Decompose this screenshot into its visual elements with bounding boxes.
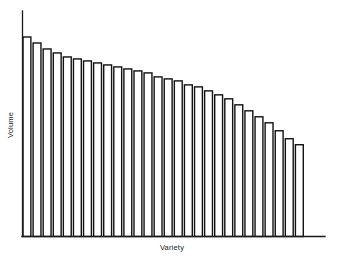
- bar: [84, 61, 92, 237]
- y-axis-title: Volume: [6, 112, 15, 138]
- bar: [174, 81, 182, 237]
- bar: [33, 43, 41, 237]
- bar: [73, 59, 81, 237]
- bar: [144, 73, 152, 237]
- bar: [63, 57, 71, 237]
- bar: [164, 79, 172, 237]
- bar: [245, 111, 253, 237]
- bar: [43, 49, 51, 237]
- bar: [225, 99, 233, 237]
- bar: [94, 63, 102, 237]
- bar: [53, 53, 61, 237]
- bar: [114, 67, 122, 237]
- x-axis-title: Variety: [160, 243, 184, 252]
- bar: [275, 131, 283, 237]
- bar: [124, 69, 132, 237]
- bar: [23, 37, 31, 237]
- bar: [195, 87, 203, 237]
- bar: [285, 139, 293, 237]
- bar: [235, 105, 243, 237]
- bar: [265, 123, 273, 237]
- chart-figure: Volume Variety: [0, 0, 339, 260]
- bar: [205, 91, 213, 237]
- bar: [154, 77, 162, 237]
- bar: [255, 117, 263, 237]
- bar: [104, 65, 112, 237]
- bar: [215, 95, 223, 237]
- volume-by-variety-bar-chart: Volume Variety: [0, 0, 339, 260]
- bar: [184, 85, 192, 237]
- bar: [295, 145, 303, 237]
- bar: [134, 71, 142, 237]
